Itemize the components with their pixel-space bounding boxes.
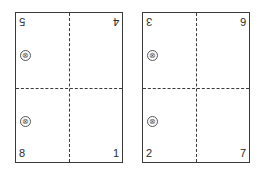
sheet-left: 5 4 8 1 ⊗ ⊗ — [15, 12, 123, 163]
page-number-bottom-left: 2 — [146, 148, 152, 159]
page-number-top-right: 6 — [240, 16, 246, 27]
page-number-top-left: 3 — [146, 16, 152, 27]
sheet-right: 3 6 2 7 ⊗ ⊗ — [142, 12, 250, 163]
fold-line-horizontal — [143, 88, 249, 89]
page-number-top-right: 4 — [113, 16, 119, 27]
page-number-top-left: 5 — [19, 16, 25, 27]
page-number-bottom-right: 7 — [240, 148, 246, 159]
crossed-circle-icon: ⊗ — [20, 116, 31, 127]
crossed-circle-icon: ⊗ — [20, 50, 31, 61]
fold-line-horizontal — [16, 88, 122, 89]
crossed-circle-icon: ⊗ — [147, 50, 158, 61]
crossed-circle-icon: ⊗ — [147, 116, 158, 127]
page-number-bottom-left: 8 — [19, 148, 25, 159]
page-number-bottom-right: 1 — [113, 148, 119, 159]
